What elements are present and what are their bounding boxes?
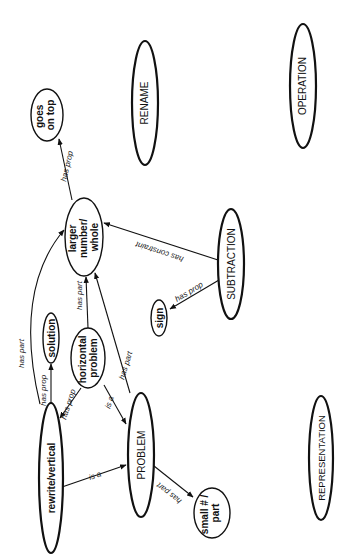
node-operation: OPERATION [290,24,316,148]
node-label: SUBTRACTION [226,228,237,300]
edge-label-has-prop-3: has prop [39,374,48,406]
node-representation: REPRESENTATION [309,396,333,520]
edge-label-is-a-2: is a [88,469,103,482]
node-label: PROBLEM [136,431,147,480]
edge-label-has-part-4: has part [154,480,183,505]
node-label-line: number/ [78,218,89,258]
node-small-part: small # / part [194,488,230,538]
edge-label-has-prop-2: has prop [173,280,205,304]
node-label-line: larger [67,224,78,252]
node-label: sign [154,308,165,329]
edge-label-has-constraint: has constraint [134,239,185,263]
node-label-line: horizontal [77,335,88,383]
node-goes-on-top: goes on top [31,89,63,141]
edge-label-has-part-2: has part [75,280,84,310]
node-label-line: whole [89,222,100,252]
node-larger-number-whole: larger number/ whole [65,198,103,276]
node-label: solution [46,319,57,358]
node-sign: sign [151,300,167,336]
node-label: rewrite/vertical [46,442,57,513]
node-label: RENAME [139,81,150,124]
svg-text:goes on top: goes on top [34,100,56,131]
edge-has-part-horizontal [86,277,88,328]
node-label-line: problem [88,338,99,378]
node-rename: RENAME [132,41,158,165]
concept-map: has prop has constraint has prop has par… [0,0,351,558]
edge-label-has-prop-4: has prop [59,388,77,421]
node-solution: solution [43,313,59,363]
edge-label-has-part-1: has part [17,338,26,368]
node-label: OPERATION [297,57,308,115]
node-label-line: on top [45,100,56,131]
node-label: REPRESENTATION [316,415,327,501]
node-horizontal-problem: horizontal problem [71,328,105,388]
node-label-line: goes [34,104,45,128]
node-problem: PROBLEM [128,393,154,517]
node-label-line: small # / [199,494,210,534]
edge-label-has-part-3: has part [117,350,134,381]
node-subtraction: SUBTRACTION [218,209,244,319]
node-label-line: part [210,503,221,523]
edge-label-has-prop-1: has prop [59,150,75,183]
edge-label-is-a-1: is a [103,394,116,409]
node-rewrite-vertical: rewrite/vertical [39,403,63,553]
svg-text:horizontal problem: horizontal problem [77,333,99,384]
